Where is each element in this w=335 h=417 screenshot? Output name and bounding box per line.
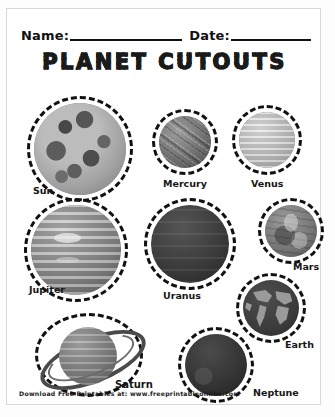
earth-cut-line	[236, 273, 306, 343]
planet-mercury[interactable]	[159, 116, 211, 168]
date-label: Date:	[189, 28, 230, 43]
name-date-row: Name: Date:	[21, 23, 311, 43]
page-title: PLANET CUTOUTS	[7, 50, 322, 74]
mercury-cut-line	[152, 109, 218, 175]
label-mercury: Mercury	[163, 178, 207, 189]
mars-cut-line	[258, 198, 324, 264]
planet-sun[interactable]	[34, 103, 126, 195]
date-write-line[interactable]	[231, 39, 311, 41]
page-sheet: Name: Date: PLANET CUTOUTS Sun Mercury V…	[6, 8, 321, 405]
footer-credit: Download Free Printables at: www.freepri…	[19, 390, 240, 397]
label-venus: Venus	[251, 178, 283, 189]
label-neptune: Neptune	[253, 387, 299, 398]
planet-neptune[interactable]	[185, 334, 247, 396]
label-uranus: Uranus	[163, 290, 201, 301]
planet-venus[interactable]	[239, 112, 295, 168]
page-title-text: PLANET CUTOUTS	[42, 50, 287, 74]
planet-mars[interactable]	[265, 205, 317, 257]
label-jupiter: Jupiter	[29, 284, 65, 295]
name-label: Name:	[21, 28, 69, 43]
venus-cut-line	[232, 105, 302, 175]
planet-jupiter[interactable]	[31, 205, 121, 295]
label-saturn: Saturn	[115, 379, 153, 390]
label-mars: Mars	[293, 261, 319, 272]
label-sun: Sun	[33, 185, 53, 196]
label-earth: Earth	[285, 339, 314, 350]
uranus-cut-line	[144, 198, 236, 290]
planet-uranus[interactable]	[151, 205, 229, 283]
worksheet-page: Name: Date: PLANET CUTOUTS Sun Mercury V…	[0, 0, 335, 417]
planet-earth[interactable]	[243, 280, 299, 336]
name-write-line[interactable]	[70, 39, 182, 41]
